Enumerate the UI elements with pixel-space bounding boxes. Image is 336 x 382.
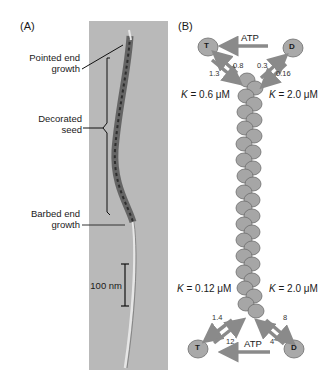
monomer-d-bottom-label: D <box>291 343 297 352</box>
actin-filament <box>236 73 264 318</box>
k-pointed-adp: K = 2.0 μM <box>269 89 318 100</box>
monomer-t-bottom-label: T <box>195 343 200 352</box>
rate-d-on-bottom: 4 <box>270 337 274 346</box>
k-barbed-adp: K = 2.0 μM <box>269 283 318 294</box>
atp-exchange-bottom-label: ATP <box>244 338 262 349</box>
rate-t-on-bottom: 12 <box>226 337 234 346</box>
monomer-d-top-label: D <box>289 42 295 51</box>
panel-b-graphics <box>0 0 336 382</box>
monomer-t-top-label: T <box>204 41 209 50</box>
rate-t-on-top: 1.3 <box>209 69 219 78</box>
k-pointed-atp: K = 0.6 μM <box>181 89 230 100</box>
rate-d-on-top: 0.16 <box>276 69 291 78</box>
k-barbed-atp: K = 0.12 μM <box>177 283 231 294</box>
atp-exchange-top-label: ATP <box>241 32 259 43</box>
rate-d-off-top: 0.3 <box>257 61 267 70</box>
rate-d-off-bottom: 8 <box>283 313 287 322</box>
rate-t-off-bottom: 1.4 <box>212 313 222 322</box>
rate-t-off-top: 0.8 <box>233 61 243 70</box>
